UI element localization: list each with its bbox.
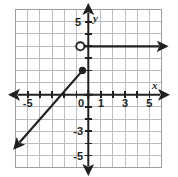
x-axis-name-label: x	[151, 79, 158, 91]
x-tick-label-three: 3	[122, 97, 128, 109]
x-tick-label-neg5: -5	[23, 97, 33, 109]
x-tick-label-five: 5	[146, 97, 152, 109]
open-endpoint-circle	[76, 42, 84, 50]
coordinate-plane-graph: y x -5 0 1 3 5 5 -3 -5	[0, 0, 178, 177]
y-tick-label-neg3: -3	[73, 125, 83, 137]
y-tick-label-neg5: -5	[73, 150, 83, 162]
closed-endpoint-dot	[79, 67, 86, 74]
x-tick-label-zero: 0	[78, 97, 84, 109]
x-tick-label-one: 1	[98, 97, 104, 109]
y-tick-label-five: 5	[75, 16, 81, 28]
graph-figure: y x -5 0 1 3 5 5 -3 -5	[0, 0, 178, 177]
y-axis-name-label: y	[91, 12, 98, 24]
